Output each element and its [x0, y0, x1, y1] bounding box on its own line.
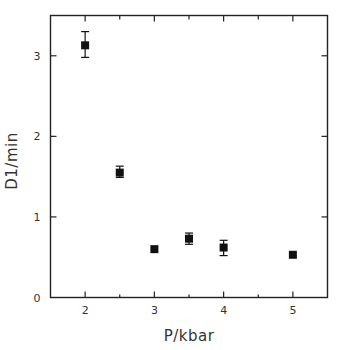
- x-tick-label: 3: [151, 304, 158, 317]
- x-tick-label: 5: [289, 304, 296, 317]
- data-point: [150, 245, 158, 253]
- plot-frame: [51, 16, 328, 298]
- square-marker: [220, 244, 228, 252]
- data-point: [220, 240, 228, 255]
- y-tick-label: 1: [34, 211, 41, 224]
- data-points: [81, 32, 297, 259]
- square-marker: [289, 251, 297, 259]
- axis-tick-labels: 23450123: [34, 50, 297, 317]
- square-marker: [116, 169, 124, 177]
- square-marker: [150, 245, 158, 253]
- y-tick-label: 2: [34, 130, 41, 143]
- x-tick-label: 4: [220, 304, 227, 317]
- axis-ticks: [51, 16, 328, 298]
- square-marker: [81, 41, 89, 49]
- x-tick-label: 2: [82, 304, 89, 317]
- x-axis-label: P/kbar: [164, 327, 215, 345]
- y-tick-label: 3: [34, 50, 41, 63]
- data-point: [81, 32, 89, 58]
- square-marker: [185, 235, 193, 243]
- scatter-chart: 23450123 P/kbar D1/min: [0, 0, 338, 350]
- data-point: [185, 233, 193, 244]
- data-point: [289, 251, 297, 259]
- y-axis-label: D1/min: [3, 132, 21, 189]
- data-point: [116, 166, 124, 177]
- y-tick-label: 0: [34, 292, 41, 305]
